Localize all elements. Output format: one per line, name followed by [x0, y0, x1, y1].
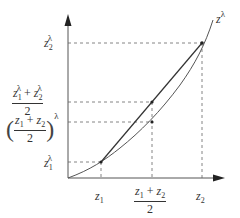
y-axis-arrow-icon	[65, 14, 72, 26]
y-label-z2-lambda: z2λ	[44, 34, 52, 52]
point-chord-mid	[150, 100, 153, 103]
plus-sign: +	[27, 113, 34, 127]
open-paren: (	[6, 117, 14, 141]
x-label-midpoint: z1 + z2 2	[134, 185, 166, 215]
label-sup: λ	[54, 112, 58, 121]
label-sub: 2	[49, 43, 53, 52]
label-sub: 2	[41, 120, 45, 129]
label-sub: 2	[201, 196, 205, 205]
numerator: z1 + z2	[14, 114, 46, 131]
x-label-z1: z1	[95, 190, 104, 205]
denominator: 2	[27, 131, 33, 144]
point-z2	[200, 41, 204, 45]
guide-lines	[68, 43, 202, 178]
numerator: z1λ + z2λ	[12, 84, 43, 104]
power-curve	[68, 20, 213, 178]
y-label-z1-lambda: z1λ	[44, 154, 52, 172]
denominator: 2	[147, 202, 153, 215]
label-sub: 1	[20, 120, 24, 129]
curve-label-exponent: λ	[221, 9, 225, 19]
plus-sign: +	[24, 86, 31, 100]
label-sub: 1	[49, 163, 53, 172]
numerator: z1 + z2	[134, 185, 166, 202]
x-label-z2: z2	[196, 190, 205, 205]
fraction: z1 + z2 2	[134, 185, 166, 215]
label-sub: 1	[100, 196, 104, 205]
label-sup: λ	[48, 33, 52, 43]
fraction: z1 + z2 2	[14, 114, 46, 144]
label-sup: λ	[38, 83, 42, 93]
close-paren: )	[46, 117, 54, 141]
curve-label: zλ	[216, 10, 225, 25]
label-sup: λ	[48, 153, 52, 163]
label-sup: λ	[17, 83, 21, 93]
label-sub: 1	[18, 93, 22, 102]
label-sub: 2	[161, 191, 165, 200]
x-axis-arrow-icon	[213, 175, 225, 182]
point-curve-mid	[150, 120, 153, 123]
point-z1	[99, 160, 102, 163]
label-sub: 1	[140, 191, 144, 200]
label-sub: 2	[39, 93, 43, 102]
plus-sign: +	[147, 184, 154, 198]
y-label-power-of-mean: ( z1 + z2 2 ) λ	[6, 114, 59, 144]
